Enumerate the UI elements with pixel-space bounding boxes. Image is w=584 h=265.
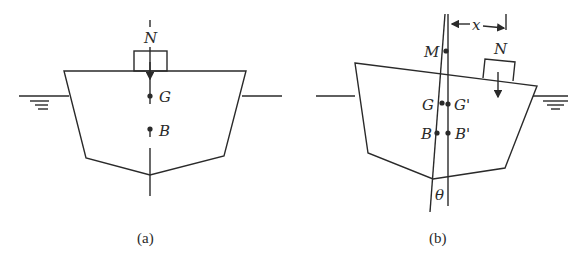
point-g [439,100,444,105]
water-symbol-icon [543,101,568,109]
point-b [434,130,439,135]
point-g-prime [445,101,450,106]
point-m [443,48,448,53]
label-n: N [493,40,508,58]
point-b [147,126,152,131]
panel-b [316,14,568,212]
label-b-prime: B' [454,125,470,143]
label-b: B [158,122,170,140]
point-g [147,93,152,98]
label-theta: θ [435,186,444,204]
water-symbol-icon [30,101,49,109]
ship-stability-diagram: N G B (a) x M N G G' B B' θ (b) [0,0,584,265]
label-n: N [143,29,158,47]
caption-a: (a) [137,230,154,247]
label-g: G [159,88,171,106]
hull-heeled [355,63,537,179]
label-g-prime: G' [454,96,470,114]
label-g: G [422,96,434,114]
x-dim-arrow-right [483,26,504,28]
caption-b: (b) [429,230,447,247]
load-box [483,59,515,81]
point-b-prime [445,130,450,135]
label-x: x [472,16,481,34]
label-m: M [423,43,440,61]
label-b: B [420,125,432,143]
hull-upright [64,71,246,175]
